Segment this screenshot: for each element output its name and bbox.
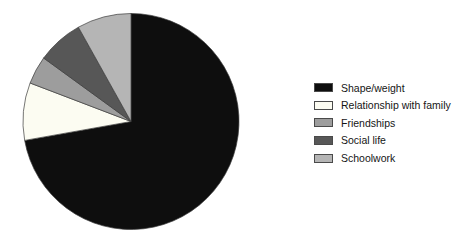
legend: Shape/weightRelationship with familyFrie… (314, 79, 451, 167)
legend-label: Social life (341, 135, 386, 146)
legend-swatch (314, 83, 333, 92)
legend-label: Relationship with family (341, 100, 451, 111)
pie-chart-figure: Shape/weightRelationship with familyFrie… (0, 0, 473, 235)
legend-item: Relationship with family (314, 97, 451, 115)
legend-label: Friendships (341, 118, 395, 129)
legend-item: Social life (314, 132, 451, 150)
legend-item: Friendships (314, 114, 451, 132)
legend-item: Schoolwork (314, 149, 451, 167)
legend-item: Shape/weight (314, 79, 451, 97)
legend-label: Shape/weight (341, 83, 405, 94)
legend-swatch (314, 154, 333, 163)
legend-swatch (314, 101, 333, 110)
legend-swatch (314, 136, 333, 145)
legend-swatch (314, 118, 333, 127)
legend-label: Schoolwork (341, 153, 395, 164)
